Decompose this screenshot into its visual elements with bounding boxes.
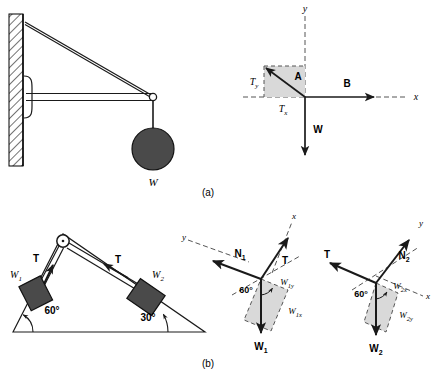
fbd1-tension-label: T xyxy=(282,255,288,266)
angle-right-label: 30° xyxy=(140,312,155,323)
fbd1-axis-x-label: x xyxy=(291,211,296,221)
fbd2-comp-y-label: W2y xyxy=(399,310,413,322)
cable-upper xyxy=(25,22,153,96)
fbd-bracket: y x A B W Ty Tx xyxy=(243,3,419,155)
fbd-axis-x-label: x xyxy=(413,91,419,102)
angle-right-arc xyxy=(163,314,168,332)
fbd1-comp-x-label: W1x xyxy=(288,306,302,318)
block-1-label: W1 xyxy=(10,269,22,283)
component-tx-label: Tx xyxy=(279,103,289,117)
fbd2-normal-label: N2 xyxy=(398,250,409,263)
fbd1-weight-label: W1 xyxy=(254,341,267,354)
pin-joint xyxy=(149,93,156,100)
fbd2-axis-y-label: y xyxy=(418,218,423,228)
fbd1-normal-arrow xyxy=(213,261,261,279)
fbd2-axis-y-dashed xyxy=(352,247,419,290)
fbd1-normal-label: N1 xyxy=(234,248,245,261)
fbd2-weight-label: W2 xyxy=(369,343,382,356)
fbd-block-2: y x N2 T W2 60° W2x W2y xyxy=(324,218,430,356)
physics-figure: W y x A B W Ty Tx (a) xyxy=(0,0,436,378)
angle-left-label: 60° xyxy=(44,305,59,316)
wall-hatching xyxy=(9,14,23,166)
fbd-axis-y-label: y xyxy=(302,3,308,14)
mount-bracket xyxy=(24,76,32,118)
block-2 xyxy=(127,279,165,316)
figure-canvas: W y x A B W Ty Tx (a) xyxy=(0,0,436,378)
bracket-weight-label: W xyxy=(148,176,158,188)
fbd2-comp-x-label: W2x xyxy=(393,281,407,293)
hanging-weight-ball xyxy=(132,128,174,170)
fbd2-tension-arrow xyxy=(330,263,376,283)
fbd1-angle-label: 60° xyxy=(239,285,253,295)
angle-left-arc xyxy=(23,315,33,332)
incline-diagram: T T W1 W2 60° 30° xyxy=(10,234,205,332)
caption-b: (b) xyxy=(202,358,214,369)
fbd2-tension-label: T xyxy=(324,249,330,260)
rope-right-edge2 xyxy=(67,248,142,293)
tension-right-label: T xyxy=(115,254,121,265)
vector-a-label: A xyxy=(294,71,301,82)
cable-lower xyxy=(25,25,152,99)
fbd1-axis-y-label: y xyxy=(181,232,186,242)
bracket-diagram: W xyxy=(9,14,174,188)
fbd2-normal-arrow xyxy=(376,240,409,283)
block-2-label: W2 xyxy=(152,269,164,283)
caption-a: (a) xyxy=(202,187,214,198)
component-ty-label: Ty xyxy=(250,76,260,90)
tension-left-label: T xyxy=(33,253,39,264)
vector-b-label: B xyxy=(343,78,350,89)
fbd2-angle-label: 60° xyxy=(354,289,368,299)
fbd2-axis-x-label: x xyxy=(425,291,430,301)
vector-w-label: W xyxy=(313,124,323,135)
pulley-axle xyxy=(62,240,65,243)
tension-right-arrow xyxy=(104,264,128,278)
